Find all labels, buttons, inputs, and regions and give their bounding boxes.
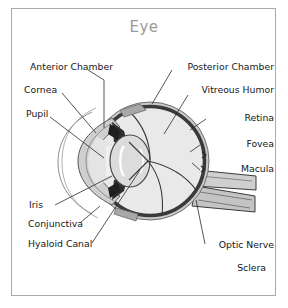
label-vitreous-humor: Vitreous Humor (201, 85, 274, 94)
label-fovea: Fovea (246, 139, 274, 148)
label-iris: Iris (29, 200, 43, 209)
figure-title: Eye (0, 18, 288, 36)
label-hyaloid-canal: Hyaloid Canal (28, 239, 92, 248)
label-macula: Macula (241, 164, 274, 173)
label-pupil: Pupil (26, 109, 48, 118)
label-sclera: Sclera (237, 263, 266, 272)
label-anterior-chamber: Anterior Chamber (30, 62, 113, 71)
label-cornea: Cornea (24, 85, 57, 94)
eye-diagram-figure: Eye (0, 0, 288, 308)
label-optic-nerve: Optic Nerve (219, 240, 274, 249)
figure-border (11, 8, 276, 296)
label-conjunctiva: Conjunctiva (28, 219, 83, 228)
label-retina: Retina (244, 113, 274, 122)
label-posterior-chamber: Posterior Chamber (187, 62, 274, 71)
